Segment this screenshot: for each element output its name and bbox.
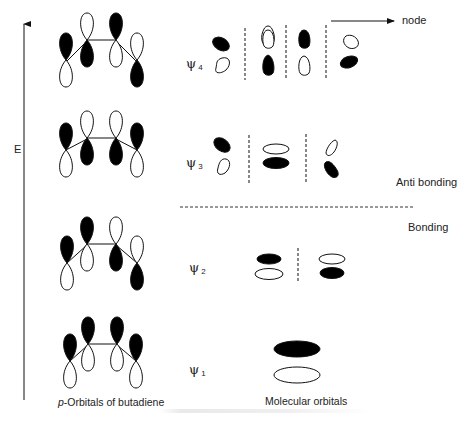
p-orbitals-psi2 — [61, 217, 144, 290]
p-orbitals-psi4 — [60, 13, 144, 87]
psi1-label: ψ1 — [189, 362, 206, 378]
energy-axis-label: E — [14, 143, 21, 155]
mo-psi4 — [210, 21, 394, 80]
psi3-label: ψ3 — [186, 155, 203, 171]
molecular-orbitals-caption: Molecular orbitals — [265, 395, 347, 407]
antibonding-label: Anti bonding — [396, 176, 457, 188]
mo-psi1 — [274, 341, 320, 383]
orbital-diagram — [0, 0, 472, 421]
psi2-label: ψ2 — [189, 260, 206, 276]
p-orbitals-psi1 — [64, 317, 143, 388]
node-label: node — [402, 14, 426, 26]
bonding-label: Bonding — [408, 221, 448, 233]
mo-psi3 — [211, 134, 338, 185]
p-orbitals-psi3 — [60, 111, 144, 177]
faint-caption-remnant — [160, 409, 370, 413]
mo-psi2 — [255, 248, 345, 281]
psi4-label: ψ4 — [186, 56, 203, 72]
p-orbitals-caption: p-Orbitals of butadiene — [58, 396, 164, 408]
